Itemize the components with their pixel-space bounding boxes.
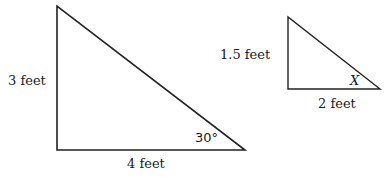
large-triangle: 3 feet 4 feet 30° [8,6,245,171]
small-horizontal-side-label: 2 feet [318,96,357,111]
large-horizontal-side-label: 4 feet [127,156,166,171]
large-triangle-shape [57,6,245,150]
small-angle-label: X [349,73,360,88]
small-triangle-shape [288,17,380,89]
similar-triangles-diagram: 3 feet 4 feet 30° 1.5 feet 2 feet X [0,0,387,177]
small-triangle: 1.5 feet 2 feet X [220,17,380,111]
small-vertical-side-label: 1.5 feet [220,47,271,62]
large-angle-label: 30° [195,130,218,145]
large-vertical-side-label: 3 feet [8,73,47,88]
